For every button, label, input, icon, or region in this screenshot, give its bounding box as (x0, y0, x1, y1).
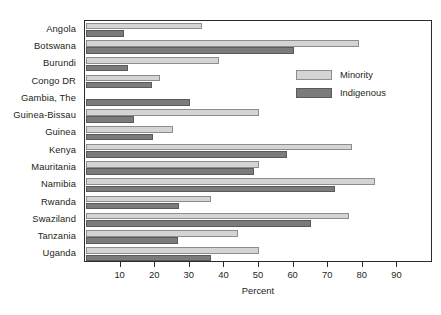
x-axis-tick-label: 10 (108, 269, 132, 280)
x-axis-tick-label: 70 (315, 269, 339, 280)
bar-minority (86, 57, 219, 64)
x-axis-tick (154, 262, 155, 267)
x-axis-title: Percent (84, 285, 432, 297)
bar-minority (86, 247, 259, 254)
x-axis-tick (223, 262, 224, 267)
y-axis-label: Namibia (0, 179, 76, 189)
bar-indigenous (86, 220, 311, 227)
bar-minority (86, 75, 160, 82)
y-axis-label: Guinea (0, 127, 76, 137)
bar-minority (86, 161, 259, 168)
bar-indigenous (86, 237, 178, 244)
x-axis-tick-label: 60 (281, 269, 305, 280)
x-axis-tick (258, 262, 259, 267)
bar-minority (86, 196, 211, 203)
y-axis-label: Kenya (0, 145, 76, 155)
bar-minority (86, 178, 375, 185)
y-axis-label: Gambia, The (0, 93, 76, 103)
y-axis-label: Guinea-Bissau (0, 110, 76, 120)
y-axis-label: Tanzania (0, 231, 76, 241)
bar-indigenous (86, 168, 254, 175)
legend-item-indigenous: Indigenous (296, 87, 414, 101)
bar-minority (86, 109, 259, 116)
legend-label-indigenous: Indigenous (340, 87, 386, 99)
bar-indigenous (86, 116, 134, 123)
x-axis-tick-label: 80 (350, 269, 374, 280)
bar-minority (86, 126, 173, 133)
y-axis-label: Mauritania (0, 162, 76, 172)
x-axis-tick (189, 262, 190, 267)
x-axis-tick-label: 20 (142, 269, 166, 280)
y-axis-label: Burundi (0, 58, 76, 68)
bar-minority (86, 230, 238, 237)
y-axis-label: Rwanda (0, 197, 76, 207)
legend-swatch-minority (296, 70, 332, 80)
x-axis-tick-label: 50 (246, 269, 270, 280)
bar-indigenous (86, 65, 128, 72)
bar-minority (86, 23, 202, 30)
bar-indigenous (86, 186, 335, 193)
bar-indigenous (86, 47, 294, 54)
x-axis-tick (120, 262, 121, 267)
legend-item-minority: Minority (296, 69, 414, 83)
y-axis-label: Congo DR (0, 76, 76, 86)
bar-indigenous (86, 151, 287, 158)
bar-minority (86, 40, 359, 47)
x-axis-tick-label: 30 (177, 269, 201, 280)
bar-minority (86, 213, 349, 220)
x-axis-tick (396, 262, 397, 267)
bar-indigenous (86, 203, 179, 210)
x-axis-tick (327, 262, 328, 267)
bar-indigenous (86, 99, 190, 106)
x-axis-tick-label: 40 (211, 269, 235, 280)
x-axis-tick (293, 262, 294, 267)
bar-minority (86, 144, 352, 151)
bar-indigenous (86, 82, 152, 89)
legend-swatch-indigenous (296, 88, 332, 98)
chart-legend: Minority Indigenous (296, 69, 414, 107)
y-axis-label: Botswana (0, 41, 76, 51)
y-axis-label: Angola (0, 24, 76, 34)
x-axis-tick (362, 262, 363, 267)
legend-label-minority: Minority (340, 69, 373, 81)
bar-indigenous (86, 30, 124, 37)
bar-series-container (85, 21, 431, 261)
chart-figure: AngolaBotswanaBurundiCongo DRGambia, The… (0, 0, 441, 315)
y-axis-category-labels: AngolaBotswanaBurundiCongo DRGambia, The… (0, 20, 80, 262)
bar-indigenous (86, 255, 211, 262)
y-axis-label: Swaziland (0, 214, 76, 224)
y-axis-label: Uganda (0, 248, 76, 258)
bar-indigenous (86, 134, 153, 141)
plot-area: Minority Indigenous (84, 20, 432, 262)
x-axis-tick-label: 90 (384, 269, 408, 280)
